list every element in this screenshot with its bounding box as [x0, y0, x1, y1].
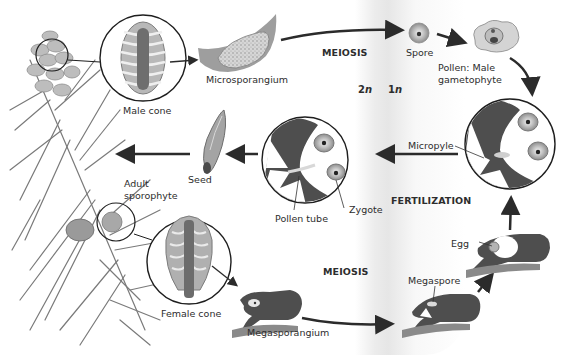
- pollen-label-line2: gametophyte: [438, 74, 502, 85]
- male-cone-label: Male cone: [123, 105, 171, 116]
- pine-life-cycle-diagram: MEIOSIS 2n 1n FERTILIZATION MEIOSIS Male…: [0, 0, 565, 355]
- microsporangium-icon: [198, 14, 276, 72]
- ovule-pollination-icon: [460, 95, 560, 190]
- egg-ovule-icon: [466, 234, 550, 278]
- spore-label: Spore: [406, 47, 433, 58]
- zygote-label: Zygote: [349, 204, 383, 215]
- microsporangium-label: Microsporangium: [206, 74, 288, 85]
- adult-sporophyte-label-line1: Adult: [124, 178, 149, 189]
- adult-sporophyte-label-line2: sporophyte: [124, 190, 178, 201]
- male-cone-icon: [100, 15, 186, 101]
- zygote-ovule-icon: [260, 115, 350, 205]
- haploid-label: 1n: [388, 84, 402, 95]
- pollen-label-line1: Pollen: Male: [438, 62, 495, 73]
- egg-label: Egg: [451, 238, 469, 249]
- seed-label: Seed: [188, 174, 212, 185]
- megaspore-ovule-icon: [402, 294, 480, 338]
- spore-icon: [409, 23, 429, 43]
- micropyle-label: Micropyle: [408, 140, 454, 151]
- meiosis-bottom-label: MEIOSIS: [323, 266, 368, 277]
- pollen-grain-icon: [474, 20, 519, 52]
- female-cone-label: Female cone: [161, 308, 221, 319]
- megasporangium-label: Megasporangium: [247, 327, 329, 338]
- diploid-label: 2n: [358, 84, 372, 95]
- diagram-artwork: [0, 0, 565, 355]
- megaspore-label: Megaspore: [408, 275, 460, 286]
- seed-icon: [203, 110, 226, 174]
- meiosis-top-label: MEIOSIS: [322, 47, 367, 58]
- fertilization-label: FERTILIZATION: [391, 195, 471, 206]
- female-cone-icon: [147, 216, 231, 304]
- pollen-tube-label: Pollen tube: [275, 213, 328, 224]
